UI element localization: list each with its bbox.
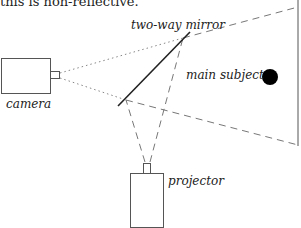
projector-label: projector [168, 174, 224, 188]
projector-body [131, 174, 164, 228]
camera-label: camera [6, 97, 51, 111]
camera-lens [51, 72, 60, 79]
two-way-mirror [118, 32, 190, 106]
projector-ray-left [126, 100, 145, 162]
camera-ray-top [60, 38, 183, 73]
mirror-label: two-way mirror [131, 18, 225, 32]
camera-ray-bottom [60, 78, 126, 100]
projector-lens [144, 164, 151, 174]
camera-body [2, 59, 51, 94]
subject-label: main subject [186, 68, 264, 82]
diagram-canvas [0, 0, 301, 228]
reflected-ray-bottom [126, 100, 298, 145]
main-subject-dot [262, 69, 278, 85]
